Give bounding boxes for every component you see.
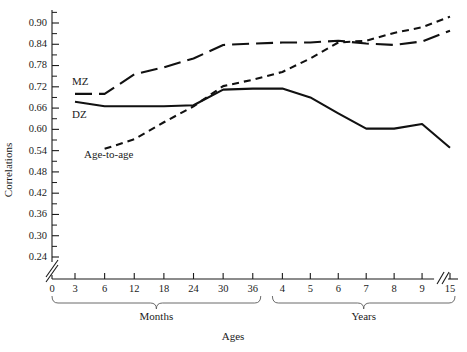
- correlations-line-chart: 0.900.840.780.720.660.600.540.480.420.36…: [0, 0, 467, 352]
- series-line-mz: [75, 31, 450, 94]
- y-tick-label: 0.84: [29, 38, 48, 49]
- x-tick-label: 36: [248, 283, 259, 294]
- x-tick-label: 3: [72, 283, 77, 294]
- x-tick-label: 4: [280, 283, 286, 294]
- x-axis: 036121824303645678915: [49, 272, 458, 294]
- x-tick-label: 7: [364, 283, 369, 294]
- y-tick-label: 0.54: [29, 145, 48, 156]
- y-tick-label: 0.72: [29, 81, 47, 92]
- y-tick-label: 0.66: [29, 102, 47, 113]
- x-tick-label: 15: [445, 283, 456, 294]
- years-brace: [272, 296, 455, 309]
- y-tick-label: 0.30: [29, 230, 47, 241]
- series-label-age-to-age: Age-to-age: [84, 148, 134, 160]
- series-labels: MZDZAge-to-age: [72, 75, 134, 160]
- x-tick-label: 9: [419, 283, 424, 294]
- y-axis-title: Correlations: [2, 143, 14, 197]
- months-group-label: Months: [140, 310, 174, 322]
- x-tick-label: 24: [188, 283, 199, 294]
- x-tick-label: 12: [129, 283, 140, 294]
- y-tick-label: 0.90: [29, 17, 47, 28]
- chart-container: 0.900.840.780.720.660.600.540.480.420.36…: [0, 0, 467, 352]
- x-tick-label: 5: [308, 283, 313, 294]
- x-tick-label: 6: [336, 283, 341, 294]
- series-lines: [75, 17, 450, 149]
- y-axis: 0.900.840.780.720.660.600.540.480.420.36…: [29, 10, 59, 282]
- x-axis-break-icon: [437, 272, 449, 284]
- axis-group-braces: MonthsYears: [52, 296, 455, 322]
- y-tick-label: 0.48: [29, 166, 47, 177]
- series-label-mz: MZ: [72, 75, 89, 87]
- y-tick-label: 0.36: [29, 208, 47, 219]
- x-tick-label: 8: [392, 283, 397, 294]
- x-origin-label: 0: [49, 283, 54, 294]
- series-label-dz: DZ: [72, 108, 87, 120]
- years-group-label: Years: [351, 310, 376, 322]
- y-tick-label: 0.60: [29, 123, 47, 134]
- series-line-dz: [75, 89, 450, 148]
- x-tick-label: 6: [102, 283, 107, 294]
- x-tick-label: 30: [218, 283, 229, 294]
- x-tick-label: 18: [159, 283, 170, 294]
- y-tick-label: 0.24: [29, 251, 48, 262]
- x-axis-title: Ages: [222, 330, 245, 342]
- months-brace: [52, 296, 261, 309]
- y-tick-label: 0.78: [29, 59, 47, 70]
- y-tick-label: 0.42: [29, 187, 47, 198]
